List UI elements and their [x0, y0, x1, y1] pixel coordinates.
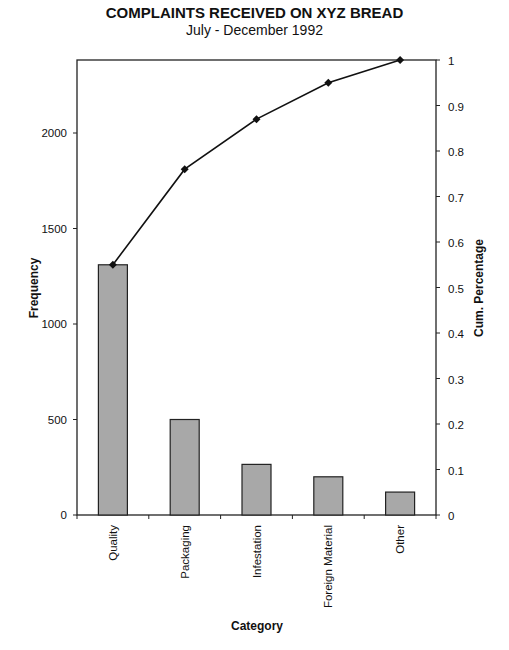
cumulative-polyline: [113, 60, 400, 265]
y2-tick-label: 0.1: [448, 465, 464, 477]
y-tick-label: 500: [48, 414, 67, 426]
y-tick-label: 1000: [41, 318, 67, 330]
bar-packaging: [170, 420, 199, 516]
y2-tick-label: 0.2: [448, 419, 464, 431]
plot-area: [77, 60, 436, 515]
x-tick-label: Packaging: [179, 525, 191, 579]
bar-foreign-material: [314, 477, 343, 515]
y-tick-label: 2000: [41, 127, 67, 139]
x-tick-label: Infestation: [251, 525, 263, 578]
y2-tick-label: 1: [448, 55, 454, 67]
x-tick-label: Other: [394, 525, 406, 554]
cumulative-line: [109, 56, 404, 269]
y-axis-title: Frequency: [27, 257, 41, 318]
frequency-bars: [98, 265, 414, 515]
bar-other: [386, 492, 415, 515]
x-tick-label: Quality: [107, 525, 119, 561]
y2-tick-label: 0.3: [448, 374, 464, 386]
x-axis-title: Category: [231, 619, 283, 633]
bar-quality: [98, 265, 127, 515]
y-axis-right: 00.10.20.30.40.50.60.70.80.91: [436, 55, 465, 522]
y2-tick-label: 0.8: [448, 146, 464, 158]
plot-border: [77, 60, 436, 515]
y-axis-left: 0500100015002000: [41, 127, 77, 521]
diamond-marker-icon: [396, 56, 404, 64]
y2-tick-label: 0.5: [448, 283, 464, 295]
y2-tick-label: 0.7: [448, 192, 464, 204]
pareto-chart: 0500100015002000 00.10.20.30.40.50.60.70…: [0, 0, 509, 650]
y2-tick-label: 0.9: [448, 101, 464, 113]
y-tick-label: 1500: [41, 223, 67, 235]
x-tick-label: Foreign Material: [322, 525, 334, 608]
y2-tick-label: 0.4: [448, 328, 465, 340]
y2-axis-title: Cum. Percentage: [472, 239, 486, 337]
bar-infestation: [242, 464, 271, 515]
y2-tick-label: 0: [448, 510, 454, 522]
x-axis: QualityPackagingInfestationForeign Mater…: [77, 515, 436, 608]
y2-tick-label: 0.6: [448, 237, 464, 249]
y-tick-label: 0: [61, 509, 67, 521]
diamond-marker-icon: [324, 79, 332, 87]
